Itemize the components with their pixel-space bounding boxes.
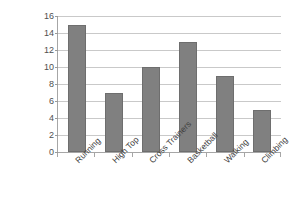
plot-area <box>57 16 281 153</box>
x-tickmark <box>94 153 95 157</box>
bars-group <box>58 16 281 152</box>
x-axis-category-labels: RunningHigh TopCross TrainersBasketballW… <box>57 158 281 218</box>
bar <box>216 76 234 153</box>
x-tickmark <box>206 153 207 157</box>
y-tick-label: 12 <box>30 45 54 55</box>
y-tick-label: 4 <box>30 113 54 123</box>
x-tickmark <box>132 153 133 157</box>
y-tick-label: 8 <box>30 79 54 89</box>
bar <box>253 110 271 153</box>
x-tickmark <box>280 153 281 157</box>
y-tick-label: 16 <box>30 11 54 21</box>
y-axis-tick-labels: 0246810121416 <box>30 16 54 153</box>
bar <box>68 25 86 153</box>
y-tick-label: 10 <box>30 62 54 72</box>
bar-slot <box>244 16 281 152</box>
y-tick-label: 14 <box>30 28 54 38</box>
y-tick-label: 0 <box>30 147 54 157</box>
y-tick-label: 2 <box>30 130 54 140</box>
x-tickmark <box>169 153 170 157</box>
x-tickmark <box>57 153 58 157</box>
bar-chart: Count 0246810121416 RunningHigh TopCross… <box>0 0 289 220</box>
bar-slot <box>58 16 95 152</box>
bar-slot <box>132 16 169 152</box>
bar <box>105 93 123 153</box>
x-tickmark <box>244 153 245 157</box>
bar <box>142 67 160 152</box>
y-tick-label: 6 <box>30 96 54 106</box>
bar-slot <box>95 16 132 152</box>
